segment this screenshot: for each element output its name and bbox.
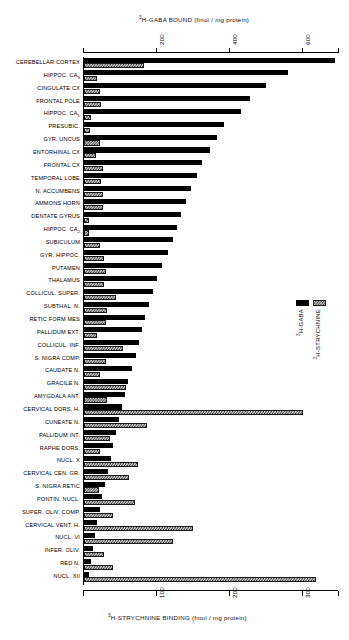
gaba-bar — [84, 237, 173, 242]
row-label: ENTORHINAL CX — [33, 147, 80, 159]
strychnine-bar — [84, 192, 103, 197]
gaba-bar — [84, 109, 241, 114]
legend-label: 3H-GABA — [296, 309, 304, 336]
axis-tick — [229, 48, 230, 53]
chart-row: HIPPOC. CA1 — [84, 108, 339, 121]
gaba-bar — [84, 417, 119, 422]
strychnine-bar — [84, 462, 138, 467]
chart-row: PRESUBIC. — [84, 121, 339, 134]
strychnine-bar — [84, 423, 147, 428]
gaba-bar — [84, 276, 157, 281]
strychnine-bar — [84, 128, 90, 133]
gaba-bar — [84, 250, 168, 255]
strychnine-bar — [84, 359, 106, 364]
axis-end-cap — [83, 48, 84, 53]
gaba-bar — [84, 572, 89, 577]
row-label: FRONTAL CX — [44, 160, 80, 172]
gaba-bar — [84, 58, 335, 63]
row-label: PONTIN. NUCL. — [37, 494, 80, 506]
strychnine-bar — [84, 410, 303, 415]
row-label: HIPPOC. CA3 — [44, 70, 80, 84]
strychnine-bar — [84, 153, 96, 158]
chart-row: AMMONS HORN — [84, 198, 339, 211]
row-label: HIPPOC. CA2 — [44, 224, 80, 238]
gaba-bar — [84, 366, 132, 371]
row-label: TEMPORAL LOBE — [31, 173, 80, 185]
row-label: FRONTAL POLE — [36, 96, 80, 108]
chart-row: CEREBELLAR CORTEX — [84, 57, 339, 70]
chart-row: CINGULATE CX — [84, 83, 339, 96]
row-label: PUTAMEN — [52, 263, 80, 275]
chart-row: FRONTAL POLE — [84, 96, 339, 109]
gaba-bar — [84, 147, 210, 152]
gaba-bar — [84, 379, 128, 384]
gaba-bar — [84, 315, 145, 320]
gaba-bar — [84, 340, 139, 345]
row-label: PALLIDUM INT. — [39, 430, 80, 442]
gaba-bar — [84, 443, 113, 448]
strychnine-bar — [84, 475, 129, 480]
row-label: CAUDATE N. — [45, 365, 80, 377]
chart-row: GYR. HIPPOC. — [84, 250, 339, 263]
chart-row: INFER. OLIV. — [84, 545, 339, 558]
gaba-bar — [84, 135, 217, 140]
gaba-bar — [84, 289, 153, 294]
strychnine-bar — [84, 115, 91, 120]
axis-tick — [229, 591, 230, 596]
chart-row: TEMPORAL LOBE — [84, 173, 339, 186]
legend-swatch — [296, 300, 309, 306]
chart-row: HIPPOC. CA2 — [84, 224, 339, 237]
gaba-bar — [84, 302, 149, 307]
chart-row: AMYGDALA ANT. — [84, 391, 339, 404]
row-label: AMMONS HORN — [35, 198, 80, 210]
gaba-bar — [84, 392, 125, 397]
gaba-bar — [84, 160, 202, 165]
row-label: RED N. — [60, 558, 80, 570]
axis-tick-label: 400 — [231, 34, 238, 45]
chart-row: CUNEATE N. — [84, 417, 339, 430]
strychnine-bar — [84, 308, 107, 313]
chart-row: DENTATE GYRUS — [84, 211, 339, 224]
axis-tick — [302, 48, 303, 53]
gaba-bar — [84, 507, 100, 512]
gaba-bar — [84, 83, 266, 88]
axis-tick-label: 300 — [304, 587, 311, 598]
chart-row: PONTIN. NUCL. — [84, 494, 339, 507]
row-label: CERVICAL DORS. H. — [23, 404, 80, 416]
gaba-bar — [84, 482, 105, 487]
strychnine-bar — [84, 179, 101, 184]
chart-row: RAPHE DORS. — [84, 443, 339, 456]
strychnine-bar — [84, 320, 106, 325]
strychnine-bar — [84, 385, 126, 390]
axis-tick — [156, 48, 157, 53]
chart-row: CERVICAL DORS. H. — [84, 404, 339, 417]
strychnine-bar — [84, 333, 97, 338]
axis-tick-label: 100 — [158, 587, 165, 598]
row-label: CERVICAL VENT. H. — [25, 520, 80, 532]
gaba-bar — [84, 212, 181, 217]
strychnine-bar — [84, 565, 113, 570]
chart-row: SUPER. OLIV. COMP. — [84, 507, 339, 520]
row-label: PALLIDUM EXT. — [37, 327, 80, 339]
chart-row: NUCL. X — [84, 455, 339, 468]
axis-end-cap — [338, 48, 339, 53]
gaba-bar — [84, 199, 186, 204]
gaba-bar — [84, 173, 197, 178]
strychnine-bar — [84, 526, 193, 531]
gaba-bar — [84, 70, 288, 75]
binding-comparison-figure: 3H-GABA BOUND (fmol / mg protein) 3H-STR… — [0, 0, 349, 640]
strychnine-bar — [84, 166, 103, 171]
chart-row: GRACILE N. — [84, 378, 339, 391]
row-label: SUPER. OLIV. COMP. — [22, 507, 80, 519]
gaba-bar — [84, 559, 91, 564]
row-label: CUNEATE N. — [45, 417, 80, 429]
strychnine-bar — [84, 243, 100, 248]
gaba-bar — [84, 520, 97, 525]
strychnine-bar — [84, 372, 100, 377]
bottom-axis-title-text: H-STRYCHNINE BINDING (fmol / mg protein) — [111, 614, 247, 621]
strychnine-bar — [84, 500, 135, 505]
bottom-axis-title: 3H-STRYCHNINE BINDING (fmol / mg protein… — [108, 613, 247, 621]
row-label: NUCL. X — [57, 455, 80, 467]
gaba-bar — [84, 469, 108, 474]
axis-end-cap — [83, 591, 84, 596]
